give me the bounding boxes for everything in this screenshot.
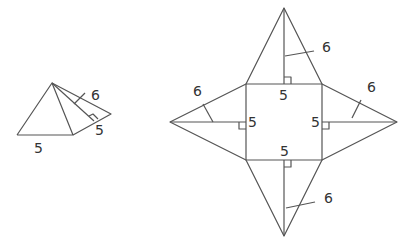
- pyramid-base-label: 5: [34, 140, 43, 156]
- net-bottom-side-label: 5: [280, 143, 289, 159]
- net-left-height-label: 6: [193, 83, 202, 99]
- pyramid-figure: 6 5 5: [17, 83, 111, 156]
- net-right-side-label: 5: [311, 114, 320, 130]
- pyramid-slant-label: 6: [91, 87, 100, 103]
- net-left-side-label: 5: [248, 114, 257, 130]
- net-left-right-angle: [239, 122, 246, 129]
- net-bottom-height-label: 6: [324, 190, 333, 206]
- diagram-canvas: 6 5 5 6 5 6 5 6 5 6 5: [0, 0, 415, 244]
- net-right-tick: [352, 100, 361, 118]
- pyramid-net: 6 5 6 5 6 5 6 5: [170, 8, 397, 236]
- net-top-right-angle: [284, 77, 291, 84]
- net-top-side-label: 5: [279, 87, 288, 103]
- pyramid-slant-tick: [74, 93, 85, 104]
- net-top-height-label: 6: [322, 39, 331, 55]
- net-left-tick: [203, 104, 213, 122]
- pyramid-front-face: [17, 83, 73, 135]
- net-top-tick: [285, 51, 314, 56]
- pyramid-side-base-label: 5: [95, 122, 104, 138]
- net-bottom-right-angle: [284, 160, 291, 167]
- net-right-right-angle: [322, 122, 329, 129]
- net-right-height-label: 6: [367, 79, 376, 95]
